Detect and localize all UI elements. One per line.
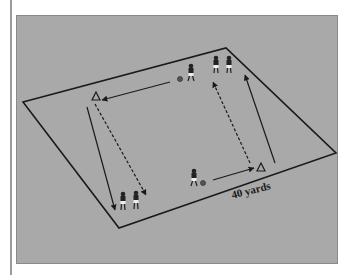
ball-icon [178,77,183,82]
run-arrow-left [95,104,146,195]
pass-arrow-bottom [213,168,254,180]
run-arrow-right [213,82,250,163]
player-icon [188,64,194,81]
ball-icon [201,181,206,186]
pass-arrow-top [102,82,170,100]
player-icon [134,191,139,209]
player-icon [191,169,197,186]
drill-diagram [0,0,344,275]
player-icon [227,56,232,73]
cone-icon [257,163,265,171]
field-outline [23,48,336,228]
cone-icon [92,92,100,100]
player-icon [121,192,126,210]
dribble-arrow-left [87,107,115,210]
dribble-arrow-right [245,75,275,163]
player-icon [214,56,219,73]
